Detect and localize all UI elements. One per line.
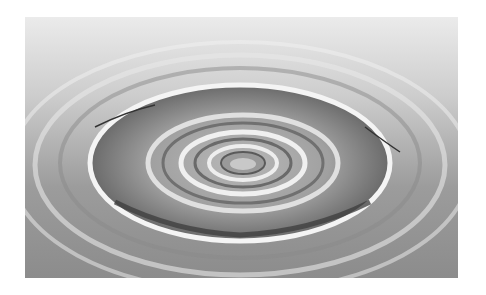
water-ripple-photo: Grayscale photo of concentric ripples sp… <box>25 17 458 278</box>
ripple-rings <box>25 17 458 278</box>
